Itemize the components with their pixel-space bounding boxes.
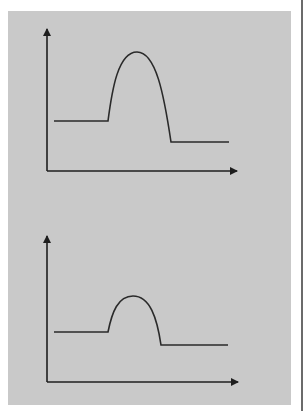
energy-diagrams bbox=[0, 0, 303, 411]
top-energy-curve bbox=[54, 52, 229, 142]
top-graph bbox=[47, 29, 237, 171]
bottom-energy-curve bbox=[54, 296, 228, 345]
bottom-graph bbox=[47, 236, 238, 382]
